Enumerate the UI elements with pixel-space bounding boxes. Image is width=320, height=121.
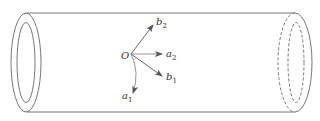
label-b2: b2 [156, 16, 167, 30]
vector-basis [131, 25, 162, 93]
label-a2: a2 [166, 48, 176, 62]
tube-diagram: O b2 a2 b1 a1 [0, 0, 320, 121]
vector-a1-curved-arrow [131, 54, 136, 93]
left-outer-rim [11, 13, 41, 112]
right-inner-rim-hidden [288, 23, 304, 103]
origin-label: O [121, 50, 129, 61]
label-a1: a1 [122, 90, 132, 104]
label-b1: b1 [166, 71, 177, 85]
left-inner-rim [17, 23, 35, 103]
vector-b2-arrow [131, 25, 153, 54]
right-outer-rim-visible [295, 13, 312, 112]
right-outer-rim-hidden [278, 13, 295, 112]
